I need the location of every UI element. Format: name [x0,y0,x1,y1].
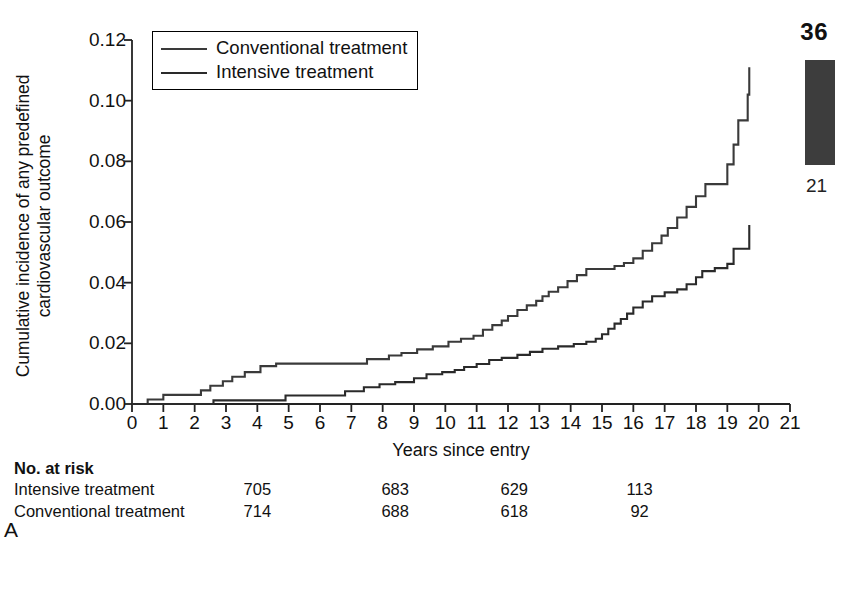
x-axis-tick-label: 13 [529,412,550,434]
risk-value: 705 [244,480,272,499]
x-axis-tick-labels: 0123456789101112131415161718192021 [132,412,802,438]
chapter-number: 21 [806,175,827,197]
legend-line-conventional-icon [161,42,207,54]
x-axis-tick-label: 10 [435,412,456,434]
x-axis-tick-label: 3 [221,412,232,434]
risk-value: 714 [244,502,272,521]
x-axis-title: Years since entry [132,440,790,461]
x-axis-tick-label: 14 [560,412,581,434]
x-axis-tick-label: 19 [717,412,738,434]
x-axis-tick-label: 1 [158,412,169,434]
x-axis-tick-label: 12 [497,412,518,434]
y-axis-ticks [124,40,132,404]
series-line-conventional [132,67,749,404]
numbers-at-risk-header: No. at risk [14,459,804,478]
risk-value: 113 [626,480,652,499]
axis-lines [132,40,790,404]
x-axis-tick-label: 11 [467,412,487,434]
legend-item-conventional: Conventional treatment [161,36,407,60]
x-axis-tick-label: 16 [623,412,644,434]
risk-value: 688 [381,502,409,521]
x-axis-tick-label: 15 [591,412,612,434]
numbers-at-risk-table: No. at risk Intensive treatment 705 683 … [14,459,804,524]
data-series-layer [132,67,749,404]
panel-letter: A [4,518,18,542]
risk-row-label-conventional: Conventional treatment [14,502,185,521]
x-axis-tick-label: 5 [283,412,294,434]
series-line-intensive [132,225,749,404]
risk-value: 618 [501,502,529,521]
table-row: Intensive treatment 705 683 629 113 [14,480,804,502]
risk-row-label-intensive: Intensive treatment [14,480,154,499]
legend-line-intensive-icon [161,66,207,78]
risk-value: 92 [630,502,648,521]
legend-item-intensive: Intensive treatment [161,60,407,84]
x-axis-tick-label: 9 [409,412,420,434]
x-axis-tick-label: 17 [654,412,675,434]
figure-page: Cumulative incidence of any predefined c… [0,0,846,599]
table-row: Conventional treatment 714 688 618 92 [14,502,804,524]
kaplan-meier-figure: Cumulative incidence of any predefined c… [0,0,790,599]
page-number: 36 [800,18,828,46]
legend-label-conventional: Conventional treatment [216,37,407,59]
x-axis-tick-label: 8 [377,412,388,434]
x-axis-tick-label: 2 [189,412,200,434]
chapter-tab-block [805,60,835,165]
x-axis-tick-label: 21 [779,412,800,434]
x-axis-tick-label: 6 [315,412,326,434]
x-axis-ticks [132,404,790,412]
x-axis-tick-label: 7 [346,412,357,434]
risk-value: 683 [381,480,409,499]
risk-value: 629 [501,480,529,499]
x-axis-tick-label: 0 [127,412,138,434]
x-axis-tick-label: 18 [685,412,706,434]
x-axis-tick-label: 4 [252,412,263,434]
legend-label-intensive: Intensive treatment [216,61,373,83]
x-axis-tick-label: 20 [748,412,769,434]
chart-legend: Conventional treatment Intensive treatme… [152,31,418,90]
